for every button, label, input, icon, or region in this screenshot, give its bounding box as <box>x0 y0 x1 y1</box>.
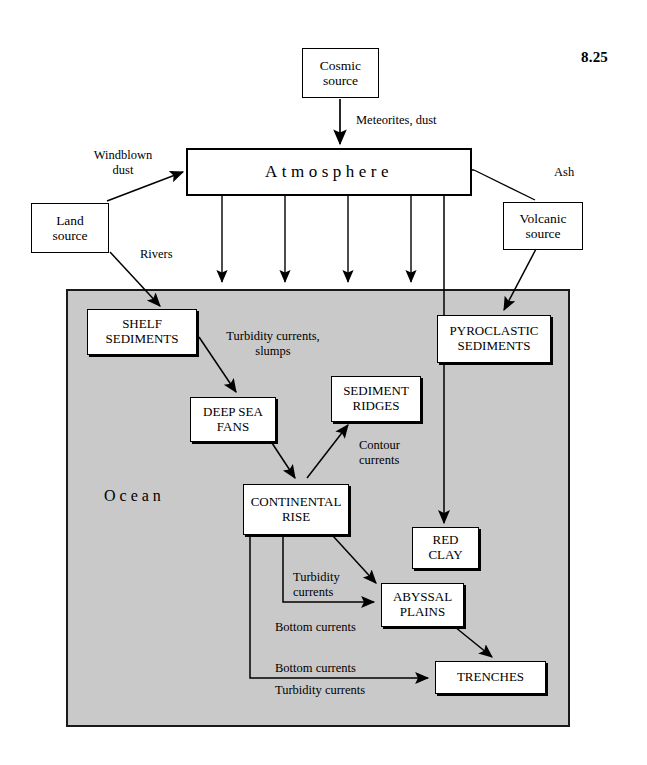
node-pyroclastic-sediments[interactable]: PYROCLASTIC SEDIMENTS <box>437 315 551 363</box>
edge-label-contour-currents-line2: currents <box>359 453 399 468</box>
line-volcanic-to-atmosphere <box>474 170 535 200</box>
abyssal-plains-line2: PLAINS <box>400 605 446 620</box>
land-source-line1: Land <box>56 213 84 228</box>
node-abyssal-plains[interactable]: ABYSSAL PLAINS <box>381 583 464 627</box>
sediment-ridges-line2: RIDGES <box>353 399 400 414</box>
cosmic-source-line1: Cosmic <box>320 58 361 73</box>
pyroclastic-sediments-line2: SEDIMENTS <box>458 339 531 354</box>
land-source-line2: source <box>52 228 87 243</box>
edge-label-contour-currents-line1: Contour <box>359 438 400 453</box>
pyroclastic-sediments-line1: PYROCLASTIC <box>450 324 539 339</box>
shelf-sediments-line2: SEDIMENTS <box>106 332 179 347</box>
abyssal-plains-line1: ABYSSAL <box>393 590 452 605</box>
deep-sea-fans-line2: FANS <box>217 420 249 435</box>
edge-label-turbidity-currents-line2: currents <box>293 585 333 600</box>
edge-label-turbidity-currents-line1: Turbidity <box>293 570 340 585</box>
edge-label-bottom-currents-mid: Bottom currents <box>275 620 356 635</box>
shelf-sediments-line1: SHELF <box>122 317 162 332</box>
node-shelf-sediments[interactable]: SHELF SEDIMENTS <box>87 309 197 355</box>
trenches-label: TRENCHES <box>457 670 524 685</box>
red-clay-line2: CLAY <box>428 548 462 563</box>
node-sediment-ridges[interactable]: SEDIMENT RIDGES <box>331 376 421 422</box>
red-clay-line1: RED <box>433 533 459 548</box>
edge-label-windblown-dust-line2: dust <box>78 163 168 178</box>
edge-label-turbidity-currents-low: Turbidity currents <box>275 683 365 698</box>
ocean-label: Ocean <box>104 487 165 505</box>
continental-rise-line2: RISE <box>282 510 310 525</box>
node-trenches[interactable]: TRENCHES <box>435 661 546 694</box>
figure-canvas: 8.25 Ocean <box>0 0 647 765</box>
edge-label-ash: Ash <box>554 165 574 180</box>
edge-label-turbidity-slumps-line1: Turbidity currents, <box>198 329 348 344</box>
atmosphere-label: Atmosphere <box>265 162 393 181</box>
volcanic-source-line1: Volcanic <box>520 211 567 226</box>
edge-label-bottom-currents-low: Bottom currents <box>275 661 356 676</box>
edge-label-rivers: Rivers <box>140 247 173 262</box>
node-atmosphere[interactable]: Atmosphere <box>186 148 472 196</box>
edge-label-windblown-dust-line1: Windblown <box>78 148 168 163</box>
node-land-source[interactable]: Land source <box>31 203 109 253</box>
node-volcanic-source[interactable]: Volcanic source <box>503 202 583 250</box>
node-continental-rise[interactable]: CONTINENTAL RISE <box>243 484 349 535</box>
deep-sea-fans-line1: DEEP SEA <box>203 405 263 420</box>
figure-number: 8.25 <box>581 49 608 66</box>
edge-label-meteorites-dust: Meteorites, dust <box>356 113 437 128</box>
node-deep-sea-fans[interactable]: DEEP SEA FANS <box>190 397 276 442</box>
edge-label-turbidity-slumps-line2: slumps <box>198 344 348 359</box>
node-red-clay[interactable]: RED CLAY <box>412 527 479 569</box>
volcanic-source-line2: source <box>525 226 560 241</box>
continental-rise-line1: CONTINENTAL <box>251 495 342 510</box>
node-cosmic-source[interactable]: Cosmic source <box>302 48 379 98</box>
cosmic-source-line2: source <box>323 73 358 88</box>
sediment-ridges-line1: SEDIMENT <box>343 384 409 399</box>
